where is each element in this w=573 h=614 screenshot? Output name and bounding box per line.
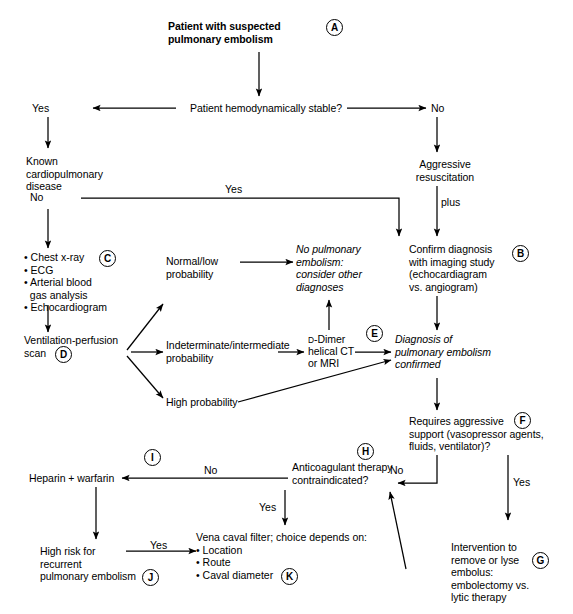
label-no-anticoag: No — [204, 464, 217, 476]
filter-item-0: • Location — [196, 544, 376, 557]
node-suspected-pe-line2: pulmonary embolism — [168, 33, 328, 46]
badge-d: D — [55, 346, 72, 363]
node-requires-aggressive-support: Requires aggressive support (vasopressor… — [409, 415, 554, 453]
label-plus: plus — [441, 196, 460, 208]
workup-item-3: gas analysis — [24, 289, 144, 302]
node-confirm-diagnosis-imaging: Confirm diagnosis with imaging study (ec… — [409, 243, 519, 293]
node-initial-workup: • Chest x-ray • ECG • Arterial blood gas… — [24, 251, 144, 314]
label-yes-known: Yes — [225, 183, 242, 195]
filter-item-1: • Route — [196, 556, 376, 569]
badge-f: F — [514, 412, 531, 429]
flowchart-canvas: Patient with suspected pulmonary embolis… — [0, 0, 573, 614]
edge-vq-to-high — [127, 356, 163, 398]
edge-known-yes-to-confirm — [81, 198, 399, 236]
workup-item-1: • ECG — [24, 264, 144, 277]
node-suspected-pe-line1: Patient with suspected — [168, 20, 328, 33]
node-ddimer-line3: or MRI — [308, 357, 368, 370]
workup-item-0: • Chest x-ray — [24, 251, 144, 264]
badge-c: C — [99, 250, 116, 267]
badge-k: K — [281, 568, 298, 585]
node-aggressive-resuscitation: Aggressive resuscitation — [400, 158, 490, 183]
workup-item-2: • Arterial blood — [24, 276, 144, 289]
node-heparin-warfarin: Heparin + warfarin — [29, 472, 129, 485]
node-indeterminate-probability: Indeterminate/intermediate probability — [166, 339, 316, 364]
badge-b: B — [512, 245, 529, 262]
label-yes-anticoag: Yes — [259, 501, 276, 513]
node-intervention-embolectomy: Intervention to remove or lyse embolus: … — [451, 541, 556, 604]
node-known-cardiopulmonary-disease: Known cardiopulmonary disease — [26, 155, 136, 193]
badge-e: E — [366, 325, 383, 342]
node-hemodynamically-stable: Patient hemodynamically stable? — [181, 102, 351, 115]
filter-heading: Vena caval filter; choice depends on: — [196, 531, 376, 544]
node-high-probability: High probability — [166, 396, 276, 409]
label-no-known: No — [30, 191, 43, 203]
workup-item-4: • Echocardiogram — [24, 301, 144, 314]
ddimer-line1-rest: -Dimer — [314, 333, 345, 345]
label-yes-stable: Yes — [32, 102, 49, 114]
node-ddimer-line2: helical CT — [308, 345, 368, 358]
node-normal-low-probability: Normal/low probability — [166, 255, 256, 280]
label-yes-support: Yes — [513, 476, 530, 488]
node-diagnosis-confirmed: Diagnosis of pulmonary embolism confirme… — [395, 333, 525, 371]
label-no-stable: No — [431, 102, 444, 114]
node-ventilation-perfusion-scan: Ventilation-perfusion scan — [24, 334, 139, 359]
badge-i: I — [144, 449, 161, 466]
badge-g: G — [532, 552, 549, 569]
node-anticoagulant-contraindicated: Anticoagulant therapy contraindicated? — [292, 461, 414, 486]
badge-a: A — [326, 19, 343, 36]
badge-h: H — [357, 443, 374, 460]
label-yes-highrisk: Yes — [150, 539, 167, 551]
node-no-pulmonary-embolism: No pulmonary embolism: consider other di… — [296, 243, 396, 293]
edge-filter-to-anticoag — [390, 492, 406, 569]
badge-j: J — [142, 569, 159, 586]
